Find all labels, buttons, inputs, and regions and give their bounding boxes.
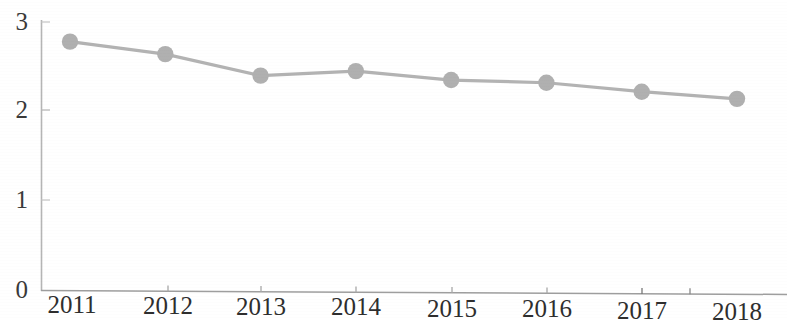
y-axis-ticks <box>42 22 51 200</box>
x-axis-tick-label-2012: 2012 <box>124 293 212 318</box>
x-axis-tick-label-2014: 2014 <box>312 294 400 319</box>
data-point-2013 <box>252 67 268 83</box>
x-axis-tick-label-2013: 2013 <box>217 294 305 319</box>
x-axis-tick-label-2018: 2018 <box>693 299 781 324</box>
x-axis-tick-label-2015: 2015 <box>408 296 496 321</box>
x-axis-tick-label-2011: 2011 <box>28 292 116 317</box>
data-point-2015 <box>443 72 459 88</box>
data-point-2017 <box>634 83 650 99</box>
y-axis-tick-label-3: 3 <box>2 9 28 34</box>
y-axis-tick-label-0: 0 <box>2 277 28 302</box>
data-point-2018 <box>729 91 745 107</box>
data-point-2014 <box>348 63 364 79</box>
data-point-2011 <box>62 33 78 49</box>
y-axis-tick-label-1: 1 <box>2 187 28 212</box>
data-point-2012 <box>157 46 173 62</box>
data-point-2016 <box>538 75 554 91</box>
y-axis-tick-label-2: 2 <box>2 97 28 122</box>
data-point-markers <box>62 33 745 107</box>
x-axis-tick-label-2017: 2017 <box>598 298 686 323</box>
x-axis-tick-label-2016: 2016 <box>503 296 591 321</box>
